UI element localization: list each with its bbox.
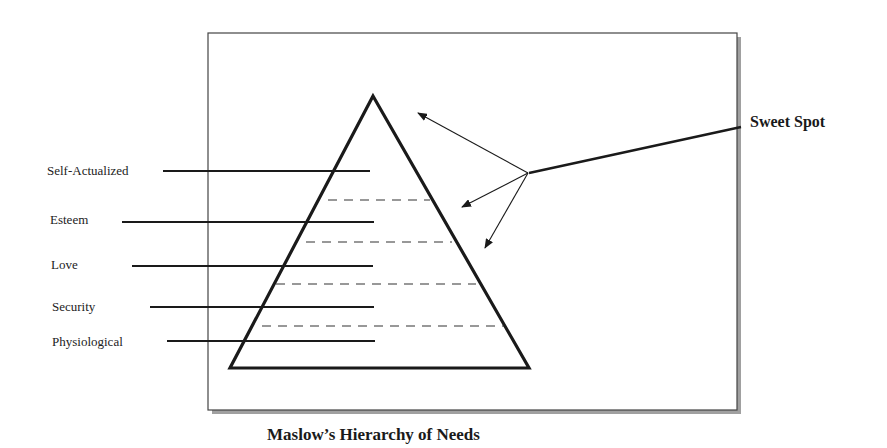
diagram-svg (0, 0, 887, 448)
level-label-love: Love (51, 258, 78, 271)
sweet-spot-label: Sweet Spot (750, 114, 825, 130)
figure-caption: Maslow’s Hierarchy of Needs (267, 426, 480, 443)
level-label-self-actualized: Self-Actualized (47, 164, 129, 177)
level-label-esteem: Esteem (50, 213, 88, 226)
diagram-canvas: Self-Actualized Esteem Love Security Phy… (0, 0, 887, 448)
level-label-security: Security (52, 300, 95, 313)
level-label-physiological: Physiological (52, 335, 123, 348)
